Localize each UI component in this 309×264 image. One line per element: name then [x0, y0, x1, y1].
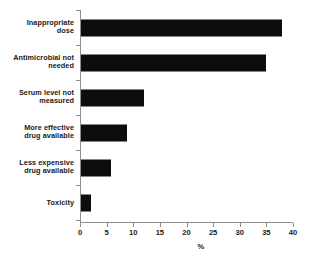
- chart-bar: [81, 124, 127, 141]
- chart-bar: [81, 19, 282, 36]
- x-axis-tick: [160, 223, 161, 227]
- chart-bar: [81, 159, 111, 176]
- chart-category-row: Inappropriatedose: [0, 10, 309, 45]
- category-label: More effectivedrug available: [0, 124, 74, 141]
- x-axis-tick: [240, 223, 241, 227]
- x-axis-tick-label: 40: [280, 228, 306, 237]
- category-label: Less expensivedrug available: [0, 159, 74, 176]
- x-axis-title: %: [0, 242, 309, 251]
- chart-category-row: Antimicrobial notneeded: [0, 45, 309, 80]
- y-axis-tick: [76, 80, 80, 81]
- y-axis-tick: [76, 220, 80, 221]
- x-axis-tick-label: 25: [200, 228, 226, 237]
- chart-bar: [81, 89, 144, 106]
- y-axis-tick: [76, 185, 80, 186]
- x-axis-tick: [213, 223, 214, 227]
- x-axis-tick-label: 35: [253, 228, 279, 237]
- chart-category-row: Toxicity: [0, 185, 309, 220]
- y-axis-tick: [76, 150, 80, 151]
- x-axis-tick-label: 15: [147, 228, 173, 237]
- x-axis-title-label: %: [105, 242, 205, 251]
- x-axis-tick-label: 30: [227, 228, 253, 237]
- chart-category-row: Serum level notmeasured: [0, 80, 309, 115]
- y-axis-tick: [76, 45, 80, 46]
- x-axis-tick-label: 5: [94, 228, 120, 237]
- y-axis-tick: [76, 10, 80, 11]
- bar-chart: InappropriatedoseAntimicrobial notneeded…: [0, 0, 309, 264]
- x-axis-tick: [293, 223, 294, 227]
- x-axis-tick-label: 10: [120, 228, 146, 237]
- chart-bar: [81, 54, 266, 71]
- x-axis-tick: [266, 223, 267, 227]
- category-label: Serum level notmeasured: [0, 89, 74, 106]
- y-axis-tick: [76, 115, 80, 116]
- category-label: Antimicrobial notneeded: [0, 54, 74, 71]
- x-axis-tick: [80, 223, 81, 227]
- chart-category-row: Less expensivedrug available: [0, 150, 309, 185]
- x-axis-tick-label: 20: [174, 228, 200, 237]
- chart-category-row: More effectivedrug available: [0, 115, 309, 150]
- x-axis-tick: [133, 223, 134, 227]
- chart-bar: [81, 194, 91, 211]
- x-axis-tick: [187, 223, 188, 227]
- x-axis-tick: [107, 223, 108, 227]
- category-label: Toxicity: [0, 198, 74, 207]
- x-axis-tick-label: 0: [67, 228, 93, 237]
- category-label: Inappropriatedose: [0, 19, 74, 36]
